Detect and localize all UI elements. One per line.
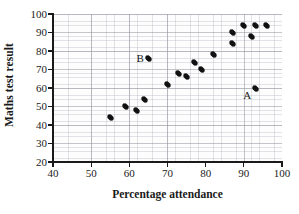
y-axis-tick [48, 32, 53, 33]
y-axis-title-container: Maths test result [0, 0, 18, 170]
plot-area: AB [53, 14, 282, 162]
point-annotation-b: B [136, 53, 143, 64]
x-axis-title: Percentage attendance [53, 188, 282, 200]
y-axis-tick [48, 143, 53, 144]
data-point [141, 96, 148, 103]
data-point [122, 103, 129, 110]
data-point [248, 33, 255, 40]
x-axis-tick-label: 50 [76, 168, 106, 179]
data-point [252, 22, 259, 29]
y-axis-tick-label: 80 [17, 46, 47, 57]
x-axis-tick-label: 70 [153, 168, 183, 179]
data-point [175, 70, 182, 77]
data-point [164, 81, 171, 88]
y-axis-title: Maths test result [3, 43, 15, 127]
data-point [210, 51, 217, 58]
x-axis-tick-label: 40 [38, 168, 68, 179]
y-axis-tick-label: 90 [17, 27, 47, 38]
scatter-plot-figure: Maths test result AB 2030405060708090100… [0, 0, 299, 214]
y-axis-tick [48, 87, 53, 88]
y-axis-tick [48, 13, 53, 14]
y-axis-tick [48, 69, 53, 70]
y-axis-tick-label: 50 [17, 101, 47, 112]
data-point [229, 40, 236, 47]
data-point [191, 59, 198, 66]
y-axis-tick-label: 70 [17, 64, 47, 75]
y-axis-tick-label: 100 [17, 9, 47, 20]
data-point [107, 114, 114, 121]
data-point [183, 73, 190, 80]
x-axis-tick-label: 80 [191, 168, 221, 179]
y-axis-tick [48, 50, 53, 51]
data-point [198, 66, 205, 73]
y-axis-tick-label: 30 [17, 138, 47, 149]
x-axis-tick-label: 60 [114, 168, 144, 179]
y-axis-tick [48, 106, 53, 107]
y-axis-tick [48, 124, 53, 125]
y-axis-tick-label: 40 [17, 120, 47, 131]
data-point [133, 107, 140, 114]
x-axis-tick-label: 100 [267, 168, 297, 179]
y-axis-tick-label: 60 [17, 83, 47, 94]
point-annotation-a: A [243, 90, 251, 101]
data-point [229, 29, 236, 36]
data-point [263, 22, 270, 29]
y-axis-tick-label: 20 [17, 157, 47, 168]
data-point [252, 84, 259, 91]
x-axis-tick-label: 90 [229, 168, 259, 179]
data-point [145, 55, 152, 62]
data-point [240, 22, 247, 29]
